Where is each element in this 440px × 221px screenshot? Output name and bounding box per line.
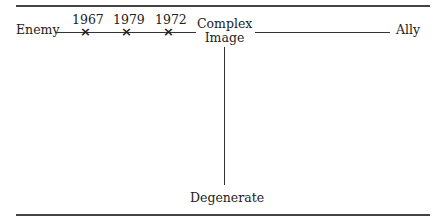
x-mark-icon: × xyxy=(121,25,132,38)
vertical-axis-line xyxy=(224,47,225,185)
right-axis-line xyxy=(255,32,390,33)
bottom-rule xyxy=(16,214,430,216)
top-rule xyxy=(16,5,430,7)
degenerate-label: Degenerate xyxy=(190,191,260,205)
complex-label: Complex xyxy=(197,17,252,31)
image-label: Image xyxy=(197,31,252,45)
ally-label: Ally xyxy=(396,23,420,37)
x-mark-icon: × xyxy=(163,25,174,38)
x-mark-icon: × xyxy=(80,25,91,38)
enemy-label: Enemy xyxy=(16,23,60,37)
